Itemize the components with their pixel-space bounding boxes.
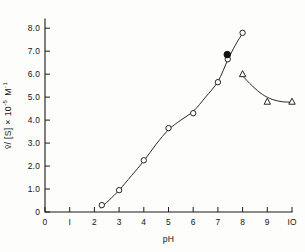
data-markers [99,30,295,208]
data-point-open-circle [116,187,121,192]
axis-labels: 0I23456789IO01.02.03.04.05.06.07.08.0pHv… [2,23,297,244]
x-tick-label: 4 [141,217,146,227]
ascending-curve [101,33,243,208]
x-axis-title: pH [163,234,175,244]
axes [45,19,292,212]
y-tick-label: 8.0 [28,23,40,33]
y-tick-label: 4.0 [28,115,40,125]
x-tick-label: 3 [117,217,122,227]
x-tick-label: I [68,217,71,227]
x-tick-label: 5 [166,217,171,227]
data-point-open-triangle [264,98,270,104]
svg-text:v̄/ [S]×10-5M-1: v̄/ [S]×10-5M-1 [2,82,13,149]
y-tick-label: 6.0 [28,69,40,79]
x-tick-label: 0 [43,217,48,227]
y-tick-label: 5.0 [28,92,40,102]
y-tick-label: 0 [35,207,40,217]
axis-lines [45,19,292,212]
x-tick-label: 6 [191,217,196,227]
x-tick-label: 2 [92,217,97,227]
y-tick-label: 3.0 [28,138,40,148]
data-point-open-triangle [289,98,295,104]
x-tick-label: IO [287,217,297,227]
fitted-curves [101,33,292,208]
data-point-open-circle [99,202,104,207]
data-point-open-circle [191,111,196,116]
x-tick-label: 9 [265,217,270,227]
x-tick-label: 7 [215,217,220,227]
y-tick-label: 2.0 [28,161,40,171]
y-tick-label: 7.0 [28,46,40,56]
data-point-open-circle [141,158,146,163]
ph-activity-plot: 0I23456789IO01.02.03.04.05.06.07.08.0pHv… [0,0,305,252]
y-tick-label: 1.0 [28,184,40,194]
data-point-open-triangle [239,71,245,77]
data-point-open-circle [166,125,171,130]
data-point-open-circle [240,30,245,35]
y-axis-title: v̄/ [S]×10-5M-1 [2,82,13,149]
x-tick-label: 8 [240,217,245,227]
data-point-filled-circle [224,51,231,58]
chart-page: 0I23456789IO01.02.03.04.05.06.07.08.0pHv… [0,0,305,252]
data-point-open-circle [215,79,220,84]
